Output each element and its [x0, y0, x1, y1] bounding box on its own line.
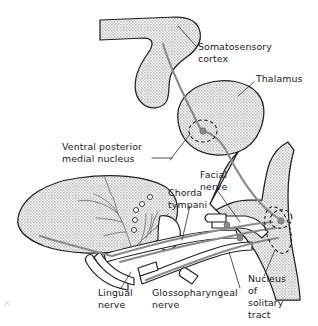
label-chorda-tympani-line1: Chorda [168, 187, 202, 198]
label-solitary-line3: solitary [248, 297, 284, 308]
label-vpm-line1: Ventral posterior [62, 141, 142, 152]
facial-nerve-branch [205, 214, 226, 222]
petrosal-ganglion-dot [237, 235, 243, 241]
solitary-neuron-dot [278, 218, 284, 224]
label-chorda-tympani-line2: tympani [168, 199, 207, 210]
taste-papilla [133, 218, 138, 223]
label-solitary-line1: Nucleus [248, 273, 286, 284]
label-glossopharyngeal-line1: Glossopharyngeal [152, 287, 238, 298]
label-solitary-line2: of [248, 285, 258, 296]
label-lingual-nerve-line2: nerve [98, 299, 126, 310]
label-lingual-nerve-line1: Lingual [98, 287, 133, 298]
taste-papilla [134, 208, 139, 213]
label-glossopharyngeal-line2: nerve [152, 299, 180, 310]
taste-papilla [148, 195, 153, 200]
geniculate-ganglion-dot [224, 222, 230, 228]
label-solitary-line4: tract [248, 309, 271, 320]
taste-papilla [132, 228, 137, 233]
label-thalamus: Thalamus [255, 73, 303, 84]
vpm-neuron-dot [200, 128, 206, 134]
label-facial-nerve-line2: nerve [200, 181, 228, 192]
taste-papilla [140, 202, 145, 207]
diagram-canvas: Somatosensory cortex Thalamus Ventral po… [0, 0, 318, 326]
label-vpm-line2: medial nucleus [62, 153, 134, 164]
label-somatosensory-cortex-line2: cortex [198, 53, 229, 64]
label-somatosensory-cortex-line1: Somatosensory [198, 41, 272, 52]
label-facial-nerve-line1: Facial [200, 169, 227, 180]
gustatory-pathway-figure: Somatosensory cortex Thalamus Ventral po… [0, 0, 318, 326]
